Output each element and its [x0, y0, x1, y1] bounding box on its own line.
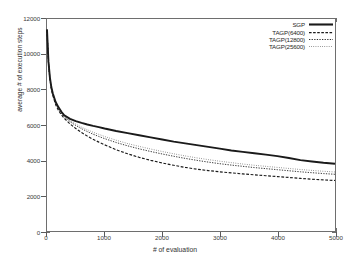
- x-tick-mark: [278, 232, 279, 237]
- x-tick-mark: [104, 232, 105, 237]
- y-tick-label: 10000: [0, 50, 40, 57]
- x-tick-inner: [336, 228, 337, 232]
- legend-label: TAGP(6400): [272, 29, 305, 36]
- x-tick-mark: [336, 232, 337, 237]
- legend-label: TAGP(12800): [269, 36, 305, 43]
- legend-item: TAGP(6400): [208, 28, 334, 35]
- legend-swatch-dotted: [308, 36, 334, 43]
- legend-item: SGP: [208, 21, 334, 28]
- legend-item: TAGP(12800): [208, 36, 334, 43]
- y-tick-label: 2000: [0, 193, 40, 200]
- chart-legend: SGP TAGP(6400) TAGP(12800) TAGP(25600): [208, 20, 336, 52]
- x-tick-mark: [46, 232, 47, 237]
- y-tick-label: 12000: [0, 15, 40, 22]
- legend-label: TAGP(25600): [269, 43, 305, 50]
- x-axis-label: # of evaluation: [0, 246, 350, 253]
- legend-swatch-dashed: [308, 29, 334, 36]
- legend-swatch-solid-thick: [308, 21, 334, 28]
- x-tick-label: 5000: [316, 234, 350, 241]
- y-axis-label: average # of execution steps: [16, 5, 23, 135]
- y-tick-label: 6000: [0, 122, 40, 129]
- chart-container: average # of execution steps 02000400060…: [0, 0, 350, 262]
- legend-label: SGP: [292, 21, 305, 28]
- y-tick-label: 8000: [0, 86, 40, 93]
- legend-swatch-fine-dotted: [308, 43, 334, 50]
- x-tick-inner-top: [336, 18, 337, 22]
- x-tick-mark: [220, 232, 221, 237]
- legend-item: TAGP(25600): [208, 43, 334, 50]
- x-tick-mark: [162, 232, 163, 237]
- y-tick-label: 4000: [0, 157, 40, 164]
